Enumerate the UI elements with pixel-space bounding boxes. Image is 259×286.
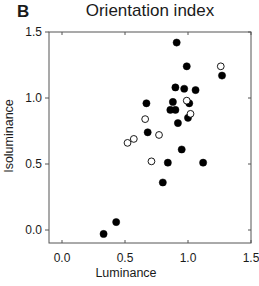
x-tick-label: 0.5 <box>117 251 134 265</box>
filled-circle-marker <box>164 159 171 166</box>
x-tick-label: 1.0 <box>180 251 197 265</box>
filled-circle-marker <box>169 98 176 105</box>
y-axis: 0.00.51.01.5 <box>25 25 251 237</box>
open-circle-marker <box>187 110 194 117</box>
filled-circle-marker <box>143 100 150 107</box>
y-tick-label: 0.0 <box>25 223 42 237</box>
y-axis-label: Isoluminance <box>2 99 16 173</box>
open-circle-marker <box>130 136 137 143</box>
filled-circle-marker <box>100 230 107 237</box>
scatter-plot: 0.00.51.01.5 0.00.51.01.5 Luminance Isol… <box>0 0 259 286</box>
open-circle-marker <box>124 139 131 146</box>
filled-circle-marker <box>172 84 179 91</box>
filled-circle-marker <box>218 72 225 79</box>
filled-circle-marker <box>181 85 188 92</box>
x-axis: 0.00.51.01.5 <box>54 32 259 265</box>
filled-circle-marker <box>174 119 181 126</box>
filled-circle-marker <box>200 159 207 166</box>
y-tick-label: 1.5 <box>25 25 42 39</box>
open-circle-marker <box>183 97 190 104</box>
data-points <box>100 39 226 238</box>
open-circle-marker <box>148 158 155 165</box>
filled-circle-marker <box>159 179 166 186</box>
filled-circle-marker <box>144 129 151 136</box>
filled-circle-marker <box>113 218 120 225</box>
open-circle-marker <box>217 63 224 70</box>
y-tick-label: 1.0 <box>25 91 42 105</box>
filled-circle-marker <box>178 146 185 153</box>
filled-circle-marker <box>192 86 199 93</box>
x-tick-label: 0.0 <box>54 251 71 265</box>
y-tick-label: 0.5 <box>25 157 42 171</box>
filled-circle-marker <box>173 39 180 46</box>
open-circle-marker <box>142 116 149 123</box>
filled-circle-marker <box>172 106 179 113</box>
open-circle-marker <box>156 132 163 139</box>
x-axis-label: Luminance <box>95 266 156 280</box>
filled-circle-marker <box>183 63 190 70</box>
x-tick-label: 1.5 <box>243 251 259 265</box>
